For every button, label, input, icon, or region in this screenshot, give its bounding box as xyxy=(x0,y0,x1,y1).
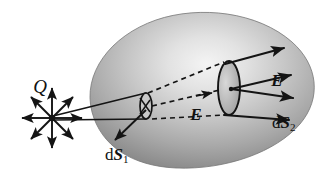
point-charge-group xyxy=(22,88,82,148)
charge-ray-sw xyxy=(31,118,52,139)
ds1-symbol: S xyxy=(114,145,123,164)
surface-body xyxy=(90,12,314,168)
ds2-subscript: 2 xyxy=(290,121,296,133)
charge-label: Q xyxy=(33,76,47,97)
figure-root: Q E E dS1 dS2 xyxy=(0,0,332,183)
ds2-symbol: S xyxy=(281,113,290,132)
charge-ray-nw xyxy=(31,97,52,118)
gauss-law-diagram: Q E E dS1 dS2 xyxy=(0,0,332,183)
gaussian-surface xyxy=(90,12,314,168)
field-label-inner: E xyxy=(189,105,201,124)
cone-edge-bottom xyxy=(53,119,146,120)
ds1-subscript: 1 xyxy=(123,153,129,165)
field-label-outer: E xyxy=(270,71,282,90)
charge-ray-se xyxy=(52,118,73,139)
